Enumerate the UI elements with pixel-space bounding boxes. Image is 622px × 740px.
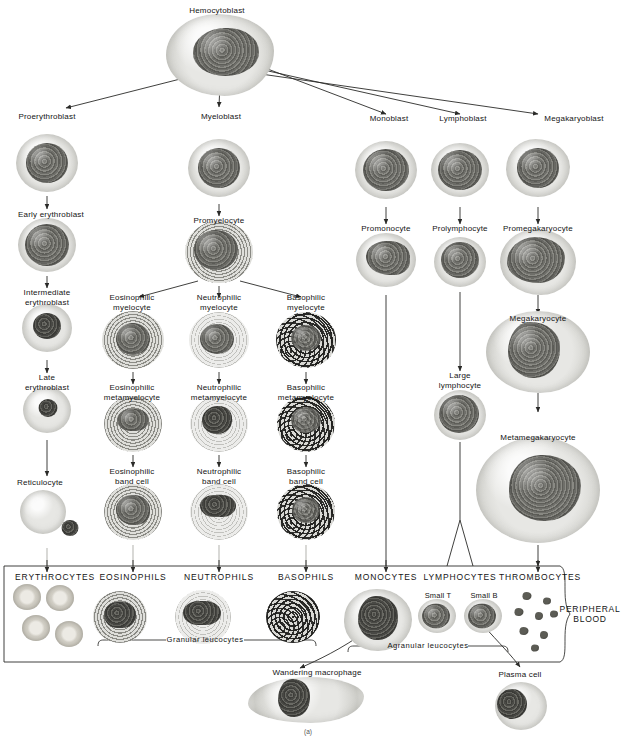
nucleus-prolymphocyte xyxy=(441,242,479,278)
cell-erythrocyte xyxy=(13,584,41,610)
label-small-t: Small T xyxy=(425,591,452,601)
nucleus-neutrophilic-metamyelocyte xyxy=(202,406,232,434)
label-eosinophilic-band-cell: Eosinophilic band cell xyxy=(109,467,154,486)
label-neutrophils: NEUTROPHILS xyxy=(184,573,254,583)
nucleus-large-lymphocyte xyxy=(439,395,479,433)
label-peripheral-blood: PERIPHERAL BLOOD xyxy=(560,604,621,624)
label-eosinophilic-myelocyte: Eosinophilic myelocyte xyxy=(109,293,154,312)
nucleus-late-erythroblast xyxy=(39,399,58,417)
nucleus-basophilic-metamyelocyte xyxy=(291,407,321,433)
label-basophilic-band-cell: Basophilic band cell xyxy=(287,467,325,486)
nucleus-promonocyte xyxy=(366,241,410,275)
nucleus-monoblast xyxy=(363,149,409,191)
label-basophilic-metamyelocyte: Basophilic metamyelocyte xyxy=(278,383,334,402)
platelet xyxy=(531,645,539,652)
label-monoblast: Monoblast xyxy=(370,114,409,124)
hematopoiesis-diagram: Hemocytoblast Proerythroblast Early eryt… xyxy=(0,0,622,740)
label-proerythroblast: Proerythroblast xyxy=(18,112,75,122)
label-neutrophilic-metamyelocyte: Neutrophilic metamyelocyte xyxy=(191,383,247,402)
nucleus-basophilic-band-cell xyxy=(292,497,320,523)
cell-reticulocyte xyxy=(20,490,66,534)
label-granular-leucocytes: Granular leucocytes xyxy=(166,635,243,645)
label-promyelocyte: Promyelocyte xyxy=(194,216,245,226)
label-neutrophilic-myelocyte: Neutrophilic myelocyte xyxy=(197,293,242,312)
cell-erythrocyte xyxy=(55,621,83,647)
nucleus-eosinophilic-metamyelocyte xyxy=(117,409,149,431)
label-thrombocytes: THROMBOCYTES xyxy=(499,573,581,583)
label-plasma-cell: Plasma cell xyxy=(498,670,541,680)
label-eosinophilic-metamyelocyte: Eosinophilic metamyelocyte xyxy=(104,383,160,402)
label-agranular-leucocytes: Agranular leucocytes xyxy=(388,641,469,651)
label-erythrocytes: ERYTHROCYTES xyxy=(15,573,95,583)
platelet xyxy=(543,598,551,605)
nucleus-neutrophilic-band-cell xyxy=(200,495,236,517)
label-megakaryocyte: Megakaryocyte xyxy=(510,314,567,324)
label-basophils: BASOPHILS xyxy=(278,573,334,583)
nucleus-small-t-lymphocyte xyxy=(422,604,450,629)
label-myeloblast: Myeloblast xyxy=(201,112,241,122)
nucleus-wandering-macrophage xyxy=(278,679,310,717)
nucleus-intermediate-erythroblast xyxy=(33,313,61,339)
platelet xyxy=(550,611,558,618)
label-eosinophils: EOSINOPHILS xyxy=(100,573,167,583)
nucleus-neutrophilic-myelocyte xyxy=(200,324,234,354)
nucleus-myeloblast xyxy=(198,148,240,188)
nucleus-promyelocyte xyxy=(194,230,238,270)
label-monocytes: MONOCYTES xyxy=(355,573,417,583)
cell-erythrocyte xyxy=(22,615,50,641)
label-basophilic-myelocyte: Basophilic myelocyte xyxy=(287,293,325,312)
nucleus-lymphoblast xyxy=(438,150,482,190)
nucleus-monocyte xyxy=(358,596,398,640)
platelet xyxy=(515,608,524,616)
label-lymphoblast: Lymphoblast xyxy=(439,114,486,124)
nucleus-eosinophilic-band-cell xyxy=(116,495,150,525)
label-late-erythroblast: Late erythroblast xyxy=(25,373,69,392)
nucleus-small-b-lymphocyte xyxy=(468,604,496,629)
platelet xyxy=(540,631,548,639)
label-megakaryoblast: Megakaryoblast xyxy=(544,114,603,124)
nucleus-megakaryocyte xyxy=(508,322,560,378)
nucleus-metamegakaryocyte xyxy=(509,455,581,521)
label-promegakaryocyte: Promegakaryocyte xyxy=(503,224,573,234)
nucleus-plasma-cell xyxy=(497,689,527,719)
label-intermediate-erythroblast: Intermediate erythroblast xyxy=(24,288,71,307)
cell-basophil xyxy=(266,591,320,643)
label-reticulocyte: Reticulocyte xyxy=(17,478,63,488)
label-metamegakaryocyte: Metamegakaryocyte xyxy=(500,433,575,443)
label-lymphocytes: LYMPHOCYTES xyxy=(424,573,497,583)
extruded-nucleus xyxy=(62,520,79,536)
label-prolymphocyte: Prolymphocyte xyxy=(432,224,488,234)
cell-erythrocyte xyxy=(46,585,74,611)
nucleus-megakaryoblast xyxy=(517,148,559,188)
nucleus-proerythroblast xyxy=(26,143,68,183)
nucleus-early-erythroblast xyxy=(25,224,69,266)
label-hemocytoblast: Hemocytoblast xyxy=(189,6,245,16)
label-early-erythroblast: Early erythroblast xyxy=(18,210,84,220)
nucleus-eosinophil xyxy=(104,602,136,628)
label-wandering-macrophage: Wandering macrophage xyxy=(272,668,361,678)
platelet xyxy=(523,592,532,600)
label-small-b: Small B xyxy=(470,591,497,601)
nucleus-promegakaryocyte xyxy=(507,237,565,283)
nucleus-hemocytoblast xyxy=(193,28,259,76)
platelet xyxy=(535,612,543,620)
nucleus-basophilic-myelocyte xyxy=(291,325,321,351)
platelet xyxy=(520,627,529,635)
nucleus-neutrophil xyxy=(183,601,221,625)
nucleus-eosinophilic-myelocyte xyxy=(116,323,150,355)
label-promonocyte: Promonocyte xyxy=(361,224,410,234)
label-large-lymphocyte: Large lymphocyte xyxy=(439,371,481,390)
label-neutrophilic-band-cell: Neutrophilic band cell xyxy=(197,467,242,486)
figure-caption: (a) xyxy=(304,728,312,735)
